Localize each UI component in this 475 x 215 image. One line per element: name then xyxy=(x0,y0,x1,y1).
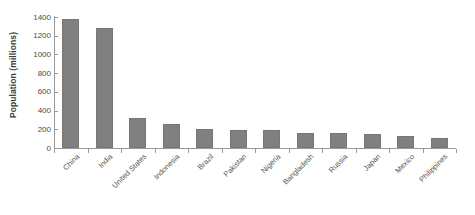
bar-chart: Population (millions) 020040060080010001… xyxy=(0,0,475,215)
x-axis-label: Nigeria xyxy=(259,152,282,175)
bar xyxy=(263,130,280,148)
y-axis-tick-mark xyxy=(54,73,58,74)
y-axis-tick-label: 1400 xyxy=(33,12,54,21)
bar-slot xyxy=(155,17,189,148)
plot-area: 0200400600800100012001400 xyxy=(54,17,456,148)
y-axis-tick-label: 1000 xyxy=(33,49,54,58)
bar-slot xyxy=(121,17,155,148)
bar xyxy=(397,136,414,148)
bar-series xyxy=(54,17,456,148)
bar xyxy=(297,133,314,148)
bar-slot xyxy=(222,17,256,148)
y-axis-title-text: Population (millions) xyxy=(8,32,18,118)
y-axis-tick-mark xyxy=(54,111,58,112)
y-axis-title: Population (millions) xyxy=(6,0,20,150)
y-axis-tick-label: 1200 xyxy=(33,31,54,40)
bar xyxy=(196,129,213,148)
x-axis-label: Mexico xyxy=(393,152,416,175)
bar-slot xyxy=(255,17,289,148)
bar-slot xyxy=(88,17,122,148)
x-axis-label: Japan xyxy=(362,152,383,173)
x-axis-label: India xyxy=(97,152,115,170)
x-axis-labels: ChinaIndiaUnited StatesIndonesiaBrazilPa… xyxy=(54,150,456,214)
y-axis-tick-label: 600 xyxy=(38,87,54,96)
bar xyxy=(129,118,146,148)
x-axis-label: Philippines xyxy=(418,152,450,184)
x-axis-label: United States xyxy=(110,152,148,190)
bar xyxy=(431,138,448,148)
y-axis-tick-mark xyxy=(54,36,58,37)
bar xyxy=(330,133,347,148)
bar xyxy=(96,28,113,148)
bar-slot xyxy=(54,17,88,148)
y-axis-tick-label: 400 xyxy=(38,106,54,115)
y-axis-tick-mark xyxy=(54,129,58,130)
y-axis-tick-label: 800 xyxy=(38,68,54,77)
y-axis-tick-mark xyxy=(54,17,58,18)
bar-slot xyxy=(389,17,423,148)
bar xyxy=(163,124,180,148)
bar xyxy=(62,19,79,148)
bar-slot xyxy=(289,17,323,148)
y-axis-tick-label: 200 xyxy=(38,124,54,133)
bar-slot xyxy=(322,17,356,148)
x-axis-tick-mark xyxy=(456,149,457,153)
y-axis-tick-mark xyxy=(54,54,58,55)
bar-slot xyxy=(188,17,222,148)
bar-slot xyxy=(423,17,457,148)
bar xyxy=(230,130,247,148)
x-axis-label: Bangladesh xyxy=(281,152,315,186)
bar xyxy=(364,134,381,148)
x-axis-label: Pakistan xyxy=(222,152,249,179)
x-axis-label: Brazil xyxy=(195,152,215,172)
bar-slot xyxy=(356,17,390,148)
y-axis-tick-mark xyxy=(54,92,58,93)
x-axis-label: Indonesia xyxy=(152,152,181,181)
x-axis-label: China xyxy=(61,152,81,172)
x-axis-label: Russia xyxy=(327,152,350,175)
y-axis-tick-label: 0 xyxy=(47,143,54,152)
